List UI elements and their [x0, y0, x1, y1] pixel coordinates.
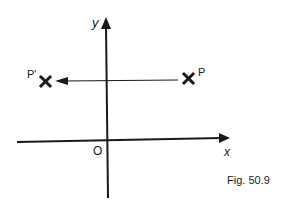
arrowhead-left-icon	[55, 77, 68, 85]
origin-label: O	[93, 145, 102, 157]
point-p-prime-label: P'	[27, 69, 36, 80]
point-p-prime-cross-icon	[41, 77, 50, 86]
translation-arrow	[55, 77, 178, 85]
figure-caption: Fig. 50.9	[227, 175, 270, 186]
y-axis-label: y	[92, 16, 99, 29]
point-p-cross-icon	[184, 74, 193, 83]
x-axis-arrowhead-icon	[219, 133, 230, 143]
y-axis-arrowhead-icon	[101, 17, 111, 29]
point-p-label: P	[198, 67, 205, 78]
x-axis-label: x	[224, 146, 230, 158]
y-axis	[101, 17, 111, 198]
x-axis	[17, 133, 230, 143]
